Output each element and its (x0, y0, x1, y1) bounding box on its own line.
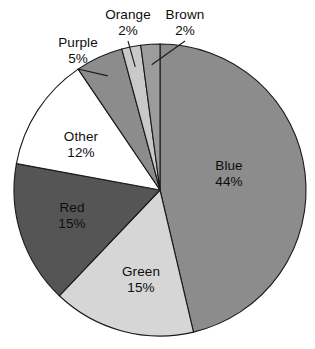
slice-label-green: Green15% (122, 264, 160, 295)
slice-label-name-brown: Brown (166, 7, 205, 22)
pie-slices-group (14, 44, 306, 336)
slice-label-name-purple: Purple (58, 35, 98, 50)
slice-label-brown: Brown2% (166, 7, 205, 38)
slice-label-red: Red15% (58, 200, 85, 231)
slice-label-other: Other12% (64, 129, 99, 160)
slice-label-blue: Blue44% (215, 158, 242, 189)
slice-label-percent-red: 15% (58, 216, 85, 231)
slice-label-orange: Orange2% (105, 7, 151, 38)
slice-label-percent-other: 12% (67, 145, 94, 160)
slice-label-name-orange: Orange (105, 7, 151, 22)
slice-label-percent-orange: 2% (118, 23, 138, 38)
slice-label-percent-green: 15% (127, 280, 154, 295)
slice-label-name-other: Other (64, 129, 99, 144)
slice-label-percent-purple: 5% (68, 51, 88, 66)
pie-chart-figure: Blue44%Green15%Red15%Other12%Purple5%Ora… (0, 0, 315, 349)
slice-label-name-red: Red (59, 200, 84, 215)
slice-label-percent-blue: 44% (215, 174, 242, 189)
slice-label-name-green: Green (122, 264, 160, 279)
slice-label-percent-brown: 2% (175, 23, 195, 38)
pie-chart-canvas: Blue44%Green15%Red15%Other12%Purple5%Ora… (0, 0, 315, 349)
slice-label-name-blue: Blue (215, 158, 242, 173)
